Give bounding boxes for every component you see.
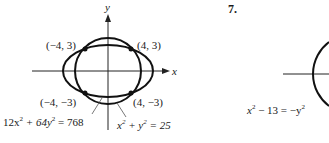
right-equation: x2 − 13 = −y2 (247, 104, 305, 116)
point-label: (−4, 3) (46, 40, 76, 51)
leader-line-circle (117, 103, 126, 117)
point-label: (4, 3) (137, 40, 161, 51)
intersection-point (83, 47, 88, 52)
x-axis-label: x (172, 66, 177, 77)
y-axis-arrow-icon (105, 14, 111, 22)
problem-number: 7. (228, 3, 237, 15)
ellipse-equation: 12x2 + 64y2 = 768 (3, 116, 84, 128)
intersection-point (83, 91, 88, 96)
point-label: (4, −3) (133, 97, 163, 108)
y-axis-label: y (105, 2, 110, 13)
intersection-point (129, 47, 134, 52)
circle-equation: x2 + y2 = 25 (117, 119, 171, 131)
x-axis-arrow-icon (162, 68, 170, 74)
intersection-point (129, 91, 134, 96)
point-label: (−4, −3) (40, 97, 76, 108)
